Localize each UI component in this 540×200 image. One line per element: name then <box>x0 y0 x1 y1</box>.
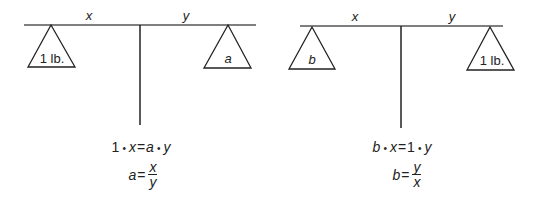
denominator: x <box>412 175 421 189</box>
left-scale-left-weight-label: 1 lb. <box>40 51 65 66</box>
var: y <box>163 139 170 155</box>
left-scale-arm-x-label: x <box>85 8 93 23</box>
fraction: yx <box>412 160 421 189</box>
left-scale-arm-y-label: y <box>182 8 191 23</box>
right-scale-left-weight-label: b <box>308 52 315 67</box>
right-scale-right-weight-label: 1 lb. <box>480 53 505 68</box>
numerator: y <box>412 160 421 175</box>
var: x <box>390 139 397 155</box>
left-equation-2: a=xy <box>118 160 168 189</box>
left-scale: x y 1 lb. a <box>24 8 256 125</box>
dot-symbol: • <box>122 143 126 154</box>
dot-symbol: • <box>157 143 161 154</box>
left-equation-1: 1•x=a•y <box>101 139 181 155</box>
coef: a <box>146 139 154 155</box>
equals-symbol: = <box>137 167 145 183</box>
balance-diagram: x y 1 lb. a x y b 1 lb. <box>0 0 540 200</box>
right-scale-arm-y-label: y <box>448 9 457 24</box>
dot-symbol: • <box>418 143 422 154</box>
right-scale-arm-x-label: x <box>351 9 359 24</box>
coef: 1 <box>407 139 415 155</box>
left-scale-right-weight-label: a <box>224 51 231 66</box>
var: x <box>129 139 136 155</box>
numerator: x <box>148 160 157 175</box>
dot-symbol: • <box>383 143 387 154</box>
equals-symbol: = <box>401 167 409 183</box>
equals-symbol: = <box>398 139 406 155</box>
right-scale: x y b 1 lb. <box>289 9 514 128</box>
fraction: xy <box>148 160 157 189</box>
var: b <box>393 167 401 183</box>
coef: 1 <box>112 139 120 155</box>
var: a <box>129 167 137 183</box>
var: y <box>424 139 431 155</box>
denominator: y <box>148 175 157 189</box>
coef: b <box>373 139 381 155</box>
right-equation-2: b=yx <box>382 160 432 189</box>
equals-symbol: = <box>137 139 145 155</box>
right-equation-1: b•x=1•y <box>362 139 442 155</box>
